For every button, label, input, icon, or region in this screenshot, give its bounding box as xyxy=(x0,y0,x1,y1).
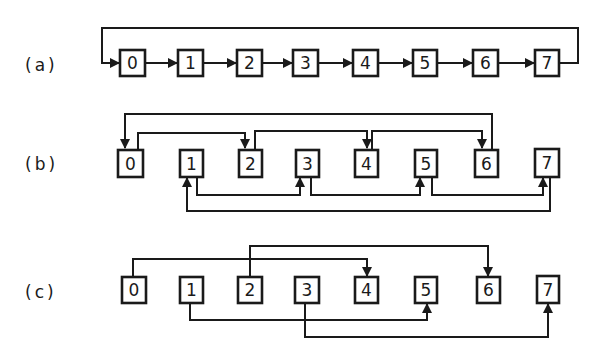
edge-a-7-0 xyxy=(102,28,578,63)
row-label-a: (a) xyxy=(25,55,58,75)
edge-b-4-6 xyxy=(372,131,482,149)
svg-text:1: 1 xyxy=(185,53,196,73)
svg-text:2: 2 xyxy=(244,53,255,73)
node-b-4: 4 xyxy=(355,150,378,177)
node-c-3: 3 xyxy=(295,277,319,303)
node-a-6: 6 xyxy=(473,50,498,76)
svg-text:3: 3 xyxy=(302,280,313,300)
node-a-1: 1 xyxy=(178,50,203,76)
row-c: (c) 0 1 2 3 4 5 6 7 xyxy=(25,246,559,337)
svg-text:1: 1 xyxy=(186,280,197,300)
node-c-7: 7 xyxy=(537,276,559,303)
svg-text:5: 5 xyxy=(421,280,432,300)
svg-text:6: 6 xyxy=(481,154,492,174)
node-c-0: 0 xyxy=(122,277,146,303)
node-a-3: 3 xyxy=(293,50,318,76)
svg-text:0: 0 xyxy=(125,154,136,174)
node-b-5: 5 xyxy=(415,150,437,177)
edge-b-5-7 xyxy=(432,177,543,195)
svg-text:7: 7 xyxy=(543,280,554,300)
svg-text:6: 6 xyxy=(480,53,491,73)
node-c-5: 5 xyxy=(415,277,437,303)
node-b-7: 7 xyxy=(535,149,559,177)
svg-text:7: 7 xyxy=(542,53,553,73)
node-b-2: 2 xyxy=(239,150,262,177)
row-b: (b) 0 1 2 3 4 5 6 7 xyxy=(25,114,559,211)
svg-text:4: 4 xyxy=(361,154,372,174)
node-a-2: 2 xyxy=(237,50,262,76)
svg-text:1: 1 xyxy=(186,154,197,174)
node-c-4: 4 xyxy=(355,277,378,303)
node-c-1: 1 xyxy=(180,277,203,303)
edge-c-1-5 xyxy=(190,304,427,320)
svg-text:5: 5 xyxy=(421,154,432,174)
node-b-0: 0 xyxy=(118,150,143,177)
node-a-4: 4 xyxy=(353,50,378,76)
svg-text:0: 0 xyxy=(127,53,138,73)
svg-text:0: 0 xyxy=(129,280,140,300)
edge-c-2-6 xyxy=(250,246,488,276)
svg-text:4: 4 xyxy=(361,280,372,300)
edge-b-1-3 xyxy=(197,177,300,195)
svg-text:2: 2 xyxy=(245,154,256,174)
node-a-0: 0 xyxy=(120,50,145,76)
svg-text:7: 7 xyxy=(542,153,553,173)
node-c-6: 6 xyxy=(477,277,500,303)
node-c-2: 2 xyxy=(238,277,262,303)
node-b-1: 1 xyxy=(180,150,203,177)
svg-text:3: 3 xyxy=(300,53,311,73)
node-a-7: 7 xyxy=(535,50,559,76)
svg-text:5: 5 xyxy=(420,53,431,73)
row-label-b: (b) xyxy=(25,154,58,174)
row-label-c: (c) xyxy=(25,282,57,302)
edge-b-3-5 xyxy=(311,177,420,195)
svg-text:4: 4 xyxy=(360,53,371,73)
node-b-6: 6 xyxy=(475,150,498,177)
row-a: (a) 0 1 2 3 4 5 6 7 xyxy=(25,28,578,76)
svg-text:6: 6 xyxy=(483,280,494,300)
svg-text:3: 3 xyxy=(302,154,313,174)
edge-b-0-2 xyxy=(138,133,245,149)
svg-text:2: 2 xyxy=(245,280,256,300)
node-a-5: 5 xyxy=(413,50,437,76)
edge-b-2-4 xyxy=(255,131,367,149)
node-b-3: 3 xyxy=(296,150,319,177)
ring-diagram: (a) 0 1 2 3 4 5 6 7 (b) 0 1 2 xyxy=(0,0,610,363)
